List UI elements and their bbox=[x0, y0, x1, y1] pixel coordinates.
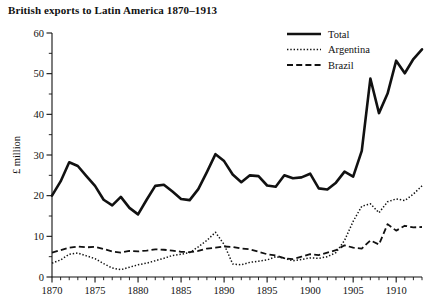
y-axis: 0102030405060 bbox=[34, 28, 53, 283]
y-tick-label: 50 bbox=[34, 68, 45, 79]
chart-legend: TotalArgentinaBrazil bbox=[287, 29, 370, 71]
y-axis-title-label: £ million bbox=[11, 135, 22, 174]
x-tick-label: 1905 bbox=[343, 285, 364, 296]
x-tick-label: 1885 bbox=[171, 285, 192, 296]
series-lines bbox=[52, 49, 422, 269]
series-line-brazil bbox=[52, 224, 422, 259]
x-tick-label: 1870 bbox=[42, 285, 63, 296]
legend-item-argentina[interactable]: Argentina bbox=[287, 44, 370, 55]
legend-item-brazil[interactable]: Brazil bbox=[287, 60, 354, 71]
y-tick-label: 10 bbox=[34, 231, 45, 242]
legend-label-brazil: Brazil bbox=[328, 60, 354, 71]
x-tick-label: 1900 bbox=[300, 285, 321, 296]
x-tick-label: 1895 bbox=[257, 285, 278, 296]
legend-label-total: Total bbox=[328, 29, 350, 40]
x-tick-label: 1875 bbox=[85, 285, 106, 296]
chart-container: British exports to Latin America 1870–19… bbox=[0, 0, 447, 308]
legend-label-argentina: Argentina bbox=[328, 44, 370, 55]
y-tick-label: 30 bbox=[34, 150, 45, 161]
x-tick-label: 1890 bbox=[214, 285, 235, 296]
series-line-argentina bbox=[52, 186, 422, 270]
y-axis-title: £ million bbox=[11, 135, 22, 174]
x-tick-label: 1910 bbox=[386, 285, 407, 296]
x-tick-label: 1880 bbox=[128, 285, 149, 296]
x-axis: 187018751880188518901895190019051910 bbox=[42, 277, 423, 296]
y-tick-label: 0 bbox=[39, 272, 44, 283]
legend-item-total[interactable]: Total bbox=[287, 29, 350, 40]
y-tick-label: 60 bbox=[34, 28, 45, 39]
chart-plot-area: 0102030405060 18701875188018851890189519… bbox=[0, 0, 447, 308]
y-tick-label: 20 bbox=[34, 190, 45, 201]
series-line-total bbox=[52, 49, 422, 214]
y-tick-label: 40 bbox=[34, 109, 45, 120]
